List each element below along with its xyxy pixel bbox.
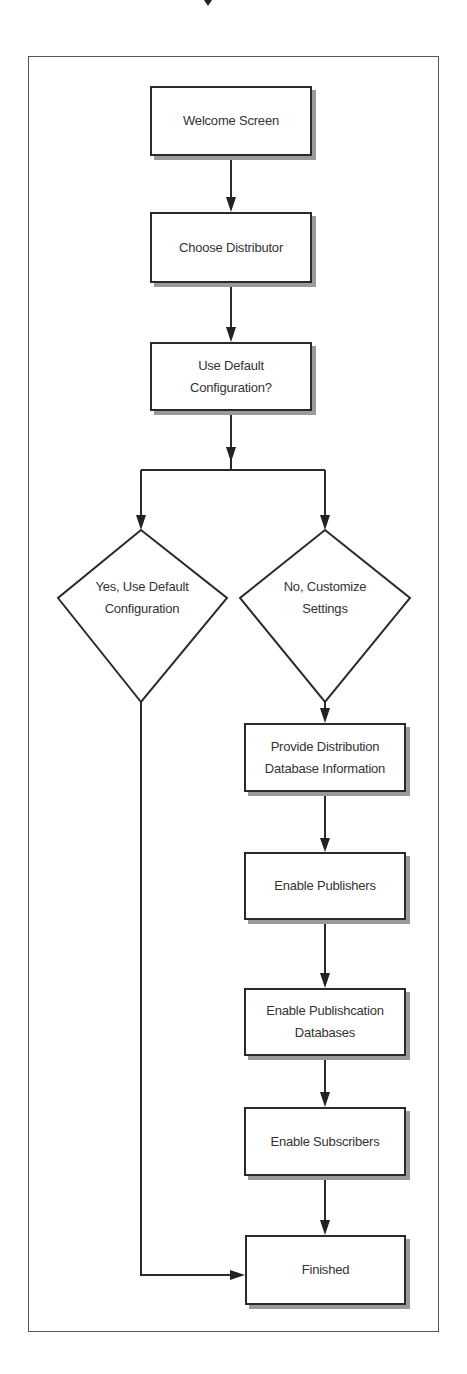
node-enable-subscribers: Enable Subscribers: [244, 1107, 406, 1176]
node-label: Provide Distribution Database Informatio…: [265, 736, 385, 780]
node-label: Choose Distributor: [179, 237, 283, 259]
top-arrow-fragment: [204, 0, 212, 6]
flowchart: Welcome Screen Choose Distributor Use De…: [0, 0, 467, 1374]
node-enable-publishers: Enable Publishers: [244, 852, 406, 920]
node-label: Enable Subscribers: [270, 1131, 379, 1153]
node-label: Enable Publishcation Databases: [266, 1000, 383, 1044]
node-label: Welcome Screen: [183, 110, 279, 132]
node-label: Use Default Configuration?: [190, 355, 272, 399]
node-choose-distributor: Choose Distributor: [150, 212, 312, 283]
node-welcome-screen: Welcome Screen: [150, 86, 312, 156]
node-finished: Finished: [245, 1235, 406, 1305]
node-label: Enable Publishers: [274, 875, 375, 897]
node-provide-distribution-db: Provide Distribution Database Informatio…: [244, 723, 406, 792]
node-label: Finished: [302, 1259, 350, 1281]
node-enable-publication-databases: Enable Publishcation Databases: [244, 988, 406, 1056]
node-yes-use-default: Yes, Use Default Configuration: [62, 575, 222, 621]
node-use-default-configuration: Use Default Configuration?: [150, 342, 312, 411]
node-no-customize-settings: No, Customize Settings: [245, 575, 405, 621]
